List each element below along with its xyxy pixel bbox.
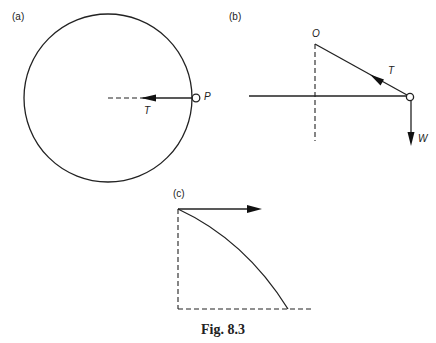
panel-a: (a) P T <box>12 11 211 182</box>
panel-b-label: (b) <box>229 11 241 22</box>
panel-c: (c) Fig. 8.3 <box>173 188 312 337</box>
particle-p <box>192 94 200 102</box>
weight-w-label: W <box>418 133 429 144</box>
pivot-o-label: O <box>312 28 320 39</box>
panel-c-label: (c) <box>173 188 185 199</box>
figure-8-3: (a) P T (b) O T W (c) Fig. 8.3 <box>0 0 436 343</box>
tension-t-label-a: T <box>144 105 151 116</box>
panel-a-label: (a) <box>12 11 24 22</box>
tension-arrowhead-a <box>141 95 156 102</box>
velocity-arrowhead <box>247 205 262 213</box>
tension-arrowhead-b <box>370 75 384 86</box>
tension-t-label-b: T <box>388 65 395 76</box>
trajectory-curve <box>178 209 288 309</box>
weight-arrowhead <box>408 132 415 146</box>
panel-b: (b) O T W <box>229 11 429 146</box>
point-p-label: P <box>204 91 211 102</box>
figure-caption: Fig. 8.3 <box>201 322 245 337</box>
particle-b <box>406 93 413 100</box>
